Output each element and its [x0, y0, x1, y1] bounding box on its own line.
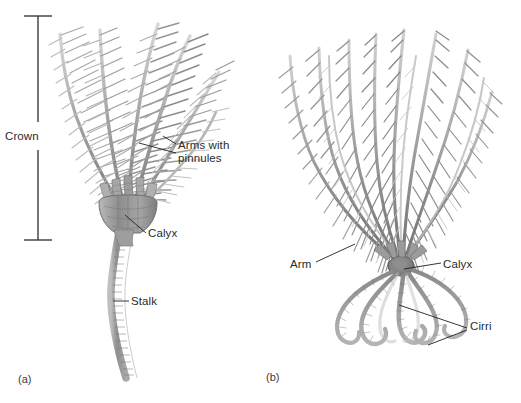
label-arms-with-pinnules-line1: Arms with — [178, 139, 229, 151]
label-cirri: Cirri — [470, 320, 492, 333]
feather-star-arms — [279, 30, 502, 273]
crown-bracket — [24, 16, 52, 240]
crinoid-figure: Crown Arms withpinnules Calyx Stalk Arm … — [0, 0, 521, 403]
label-arm-b: Arm — [290, 258, 311, 271]
label-crown: Crown — [5, 130, 39, 143]
figure-illustration — [0, 0, 521, 403]
panel-b-illustration — [279, 30, 502, 345]
label-arms-with-pinnules-line2: pinnules — [178, 152, 222, 164]
label-arms-with-pinnules: Arms withpinnules — [178, 139, 229, 165]
label-calyx-b: Calyx — [443, 258, 472, 271]
caption-panel-b: (b) — [266, 371, 279, 383]
arm-b-11 — [404, 78, 494, 263]
leader-arm-b — [316, 244, 355, 262]
panel-a-illustration — [24, 16, 234, 378]
arm-a-1 — [49, 27, 137, 214]
cirri-group — [337, 266, 470, 344]
caption-panel-a: (a) — [18, 373, 31, 385]
label-stalk: Stalk — [131, 295, 157, 308]
label-calyx-a: Calyx — [148, 227, 177, 240]
